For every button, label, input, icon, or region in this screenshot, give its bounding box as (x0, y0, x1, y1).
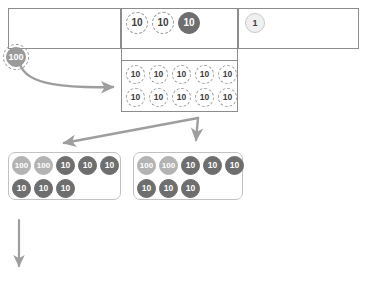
group-right-row-1: 100 100 10 10 10 (137, 156, 244, 175)
ten-disc[interactable]: 10 (203, 156, 222, 175)
ten-disc[interactable]: 10 (218, 88, 237, 107)
tens-expansion-row-2: 10 10 10 10 10 (126, 88, 237, 107)
ten-disc[interactable]: 10 (137, 179, 156, 198)
ten-disc[interactable]: 10 (218, 65, 237, 84)
hundred-disc[interactable]: 100 (12, 156, 31, 175)
hundred-source-disc[interactable]: 100 (6, 47, 26, 67)
arrow-split-down (196, 118, 198, 140)
hundred-disc[interactable]: 100 (34, 156, 53, 175)
diagram-canvas: 10 10 10 1 100 10 10 10 10 10 10 10 10 1… (0, 0, 365, 282)
ten-disc[interactable]: 10 (126, 65, 145, 84)
ones-cell-disc-row: 1 (245, 13, 265, 33)
hundreds-cell (8, 8, 121, 49)
ten-disc[interactable]: 10 (159, 179, 178, 198)
ten-disc[interactable]: 10 (12, 179, 31, 198)
ten-disc[interactable]: 10 (126, 88, 145, 107)
ten-disc[interactable]: 10 (152, 12, 174, 34)
one-disc[interactable]: 1 (245, 13, 265, 33)
ten-disc[interactable]: 10 (181, 156, 200, 175)
ten-disc[interactable]: 10 (78, 156, 97, 175)
tens-cell-disc-row: 10 10 10 (126, 12, 200, 34)
ten-disc[interactable]: 10 (100, 156, 119, 175)
group-right-row-2: 10 10 10 (137, 179, 200, 198)
hundred-disc[interactable]: 100 (137, 156, 156, 175)
tens-column-connector-right (237, 48, 238, 61)
ten-disc[interactable]: 10 (34, 179, 53, 198)
ten-disc[interactable]: 10 (126, 12, 148, 34)
ten-disc[interactable]: 10 (195, 88, 214, 107)
arrow-hundred-to-tens (20, 64, 113, 87)
ten-disc[interactable]: 10 (225, 156, 244, 175)
ten-disc[interactable]: 10 (149, 65, 168, 84)
ten-disc[interactable]: 10 (56, 179, 75, 198)
group-left-row-1: 100 100 10 10 10 (12, 156, 119, 175)
ten-disc[interactable]: 10 (172, 65, 191, 84)
tens-column-connector-left (121, 48, 122, 61)
hundred-source-disc-wrap: 100 (6, 47, 26, 67)
ten-disc[interactable]: 10 (181, 179, 200, 198)
ten-disc[interactable]: 10 (56, 156, 75, 175)
hundred-disc[interactable]: 100 (159, 156, 178, 175)
tens-expansion-row-1: 10 10 10 10 10 (126, 65, 237, 84)
group-left-row-2: 10 10 10 (12, 179, 75, 198)
ten-disc[interactable]: 10 (195, 65, 214, 84)
ten-disc[interactable]: 10 (178, 12, 200, 34)
ten-disc[interactable]: 10 (172, 88, 191, 107)
arrow-split-left (64, 118, 198, 143)
ten-disc[interactable]: 10 (149, 88, 168, 107)
